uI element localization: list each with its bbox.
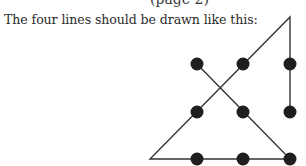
dot-3: [284, 58, 297, 71]
dot-8: [237, 153, 250, 166]
nine-dots-puzzle-diagram: [0, 0, 306, 166]
four-connected-lines: [150, 17, 290, 159]
dot-4: [191, 106, 204, 119]
dot-7: [191, 153, 204, 166]
dot-2: [237, 58, 250, 71]
dot-6: [284, 106, 297, 119]
dot-1: [191, 58, 204, 71]
dot-5: [237, 106, 250, 119]
dot-9: [284, 153, 297, 166]
